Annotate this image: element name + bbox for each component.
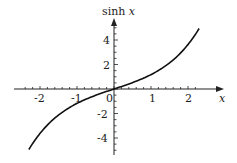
y-tick-label: -4 [97, 132, 108, 145]
y-axis-arrow-icon [111, 18, 117, 26]
x-tick-label: -1 [71, 92, 82, 105]
y-axis [111, 18, 118, 155]
y-tick-label: -2 [97, 108, 108, 121]
x-axis-label: x [219, 92, 226, 105]
sinh-chart: sinh x x -2 -1 0 1 2 4 2 -2 -4 [0, 0, 237, 163]
x-tick-label: 2 [185, 92, 192, 105]
y-tick-label: 4 [103, 34, 110, 47]
x-tick-label: 0 [106, 92, 113, 105]
y-axis-label: sinh x [102, 5, 136, 18]
y-tick-label: 2 [103, 59, 110, 72]
x-tick-label: -2 [34, 92, 45, 105]
x-tick-label: 1 [149, 92, 156, 105]
